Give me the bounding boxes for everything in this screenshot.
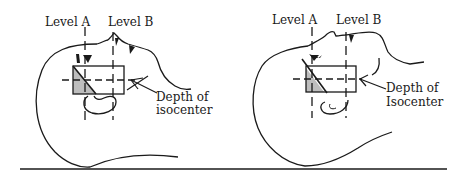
left-eyebrow-mark (115, 38, 119, 46)
right-depth-label-line1: Depth of (386, 82, 438, 95)
left-lens-mark-1 (76, 54, 80, 63)
right-level-a-label: Level A (272, 14, 317, 27)
left-level-a-label: Level A (45, 16, 90, 29)
left-ear (84, 96, 116, 114)
right-wedge-shading (306, 68, 324, 92)
right-eyebrow-mark (349, 35, 354, 43)
left-depth-arrow (127, 76, 157, 93)
right-depth-arrow (360, 75, 386, 89)
right-depth-label-line2: Isocenter (386, 96, 443, 109)
right-ear (321, 100, 348, 114)
left-level-b-label: Level B (108, 16, 153, 29)
radiotherapy-head-positioning-diagram: Level A Level B Depth of isocenter Level… (0, 0, 466, 178)
left-depth-label-line2: isocenter (156, 104, 212, 117)
right-level-b-label: Level B (336, 14, 381, 27)
